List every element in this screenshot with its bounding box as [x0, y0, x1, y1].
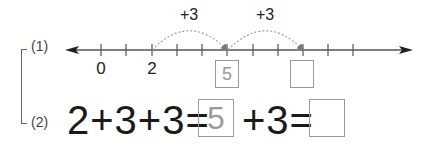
jump-arc-2	[228, 31, 302, 50]
numline-answer-box-1[interactable]: 5	[215, 60, 239, 88]
tick-label-0: 0	[96, 59, 105, 79]
equation-text-2: +3=	[242, 98, 314, 142]
equation-answer-box-1[interactable]: 5	[198, 99, 234, 137]
jump-label-1: +3	[180, 6, 198, 24]
numline-answer-box-2[interactable]	[290, 60, 314, 88]
tick-label-2: 2	[147, 59, 156, 79]
jump-arc-1	[152, 31, 226, 50]
jump-label-2: +3	[256, 6, 274, 24]
equation-text-1: 2+3+3=	[67, 98, 210, 142]
equation-part-1: 2+3+3=	[67, 100, 210, 140]
equation-answer-box-2[interactable]	[309, 99, 345, 137]
equation-part-2: +3=	[242, 100, 314, 140]
